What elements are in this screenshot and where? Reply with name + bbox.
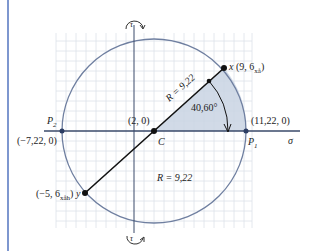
point-p2	[60, 129, 65, 134]
point-inner	[207, 79, 212, 84]
p2-coords-label: (−7,22, 0)	[17, 136, 57, 146]
p1-label: P1	[248, 137, 258, 150]
radius-label-lower: R = 9,22	[157, 173, 192, 183]
point-x	[221, 65, 227, 71]
sigma-label: σ	[288, 136, 293, 146]
point-y-label: (−5, 6xåh) y	[36, 189, 80, 202]
point-x-label: x (9, 6xå)	[229, 62, 264, 75]
tau-label-bottom: τ	[130, 235, 133, 243]
tau-label-top: τ	[130, 21, 133, 29]
center-coords-label: (2, 0)	[128, 116, 150, 126]
p2-label: P2	[47, 116, 57, 129]
point-p1	[244, 129, 249, 134]
point-c	[151, 128, 157, 134]
p1-coords-label: (11,22, 0)	[251, 116, 290, 126]
center-label: C	[158, 137, 165, 147]
angle-label: 40,60°	[191, 103, 218, 113]
point-y	[82, 190, 88, 196]
